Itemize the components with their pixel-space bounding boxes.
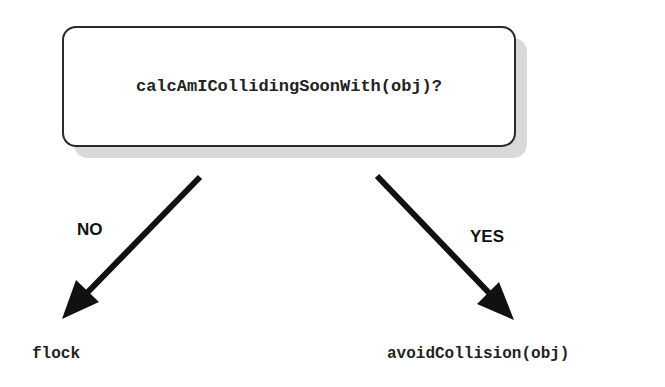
arrow-yes-icon (377, 176, 514, 320)
branch-label-no: NO (77, 220, 103, 240)
arrow-no-icon (62, 177, 200, 319)
outcome-yes: avoidCollision(obj) (387, 345, 569, 363)
branch-label-yes: YES (470, 227, 504, 247)
branch-arrows (0, 0, 665, 387)
outcome-no: flock (32, 345, 80, 363)
